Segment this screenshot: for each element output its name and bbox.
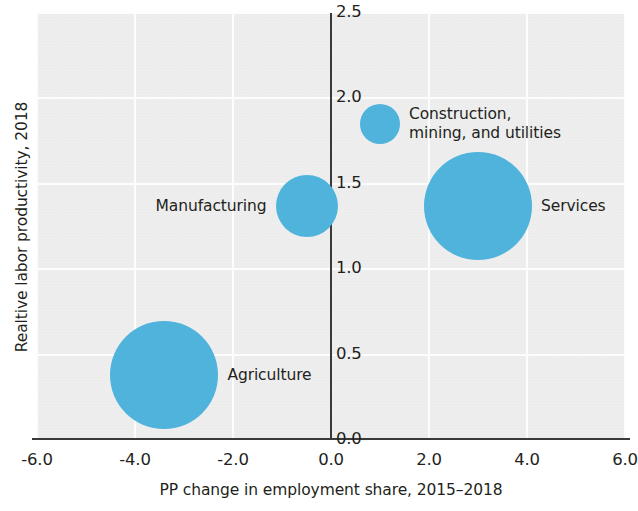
bubble-label-line: mining, and utilities bbox=[409, 124, 561, 143]
x-tick-label: 4.0 bbox=[514, 450, 540, 469]
gridline-vertical bbox=[36, 13, 38, 440]
y-tick-label: 1.5 bbox=[336, 173, 362, 192]
y-tick-label: 2.5 bbox=[336, 2, 362, 21]
bubble-point[interactable] bbox=[424, 152, 532, 260]
y-tick-label: 1.0 bbox=[336, 258, 362, 277]
bubble-label-line: Services bbox=[541, 197, 606, 216]
bubble-label: Construction,mining, and utilities bbox=[409, 105, 561, 143]
x-tick-label: -6.0 bbox=[21, 450, 52, 469]
bubble-point[interactable] bbox=[276, 175, 338, 237]
x-tick-label: 2.0 bbox=[416, 450, 442, 469]
y-tick-label: 0.5 bbox=[336, 344, 362, 363]
bubble-point[interactable] bbox=[110, 321, 218, 429]
x-axis-title: PP change in employment share, 2015–2018 bbox=[37, 481, 625, 499]
x-tick-label: 6.0 bbox=[612, 450, 638, 469]
x-tick-label: -2.0 bbox=[217, 450, 248, 469]
gridline-vertical bbox=[624, 13, 626, 440]
bubble-point[interactable] bbox=[360, 104, 400, 144]
y-tick-label: 0.0 bbox=[336, 429, 362, 448]
bubble-label-line: Construction, bbox=[409, 105, 561, 124]
plot-area: Construction,mining, and utilitiesManufa… bbox=[37, 13, 625, 440]
x-tick-label: -4.0 bbox=[119, 450, 150, 469]
bubble-label-line: Agriculture bbox=[227, 366, 311, 385]
bubble-label-line: Manufacturing bbox=[156, 197, 267, 216]
x-tick-label: 0.0 bbox=[318, 450, 344, 469]
bubble-label: Services bbox=[541, 197, 606, 216]
bubble-label: Manufacturing bbox=[156, 197, 267, 216]
y-axis-line bbox=[330, 13, 332, 440]
y-axis-title: Realtive labor productivity, 2018 bbox=[13, 12, 31, 442]
bubble-label: Agriculture bbox=[227, 366, 311, 385]
x-axis-line bbox=[32, 438, 630, 440]
y-tick-label: 2.0 bbox=[336, 87, 362, 106]
